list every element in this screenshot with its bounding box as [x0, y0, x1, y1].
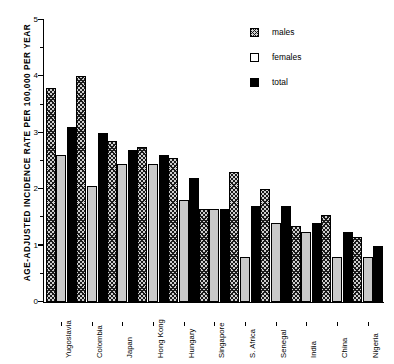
x-axis-line: [43, 302, 384, 303]
y-axis-title: AGE-ADJUSTED INCIDENCE RATE PER 100,000 …: [23, 8, 32, 298]
bar-females: [87, 186, 97, 302]
bar-females: [271, 223, 281, 302]
x-axis-tick: [368, 322, 369, 326]
bar-group: [137, 20, 168, 302]
y-axis-tick-label: 1: [24, 242, 38, 250]
x-axis-tick: [184, 322, 185, 326]
bar-females: [148, 164, 158, 302]
bar-females: [56, 155, 66, 302]
bar-females: [301, 232, 311, 303]
bar-males: [229, 172, 239, 302]
bar-chart: AGE-ADJUSTED INCIDENCE RATE PER 100,000 …: [0, 0, 394, 364]
y-axis-tick: [38, 244, 44, 245]
x-axis-label: Hong Kong: [156, 319, 165, 358]
bar-group: [76, 20, 107, 302]
x-axis-tick: [92, 322, 93, 326]
legend-swatch-total-icon: [250, 78, 259, 87]
bar-group: [352, 20, 383, 302]
x-axis-label: S. Africa: [248, 329, 257, 358]
bar-total: [373, 246, 383, 302]
bar-group: [46, 20, 77, 302]
bar-males: [107, 141, 117, 302]
y-axis-tick-label: 3: [24, 129, 38, 137]
x-axis-tick: [61, 322, 62, 326]
y-axis-minor-tick: [40, 160, 44, 161]
bar-females: [240, 257, 250, 302]
bar-group: [291, 20, 322, 302]
bar-females: [332, 257, 342, 302]
bar-group: [321, 20, 352, 302]
y-axis-tick-label: 0: [24, 298, 38, 306]
y-axis-tick-label: 2: [24, 185, 38, 193]
y-axis-minor-tick: [40, 273, 44, 274]
x-axis-label: Senegal: [279, 329, 288, 358]
x-axis-label: Nigeria: [371, 333, 380, 358]
bar-males: [260, 189, 270, 302]
bar-males: [291, 226, 301, 302]
y-axis-minor-tick: [40, 104, 44, 105]
x-axis-tick: [122, 322, 123, 326]
legend-swatch-females-icon: [250, 53, 259, 62]
y-axis-tick-label: 5: [24, 16, 38, 24]
x-axis-tick: [337, 322, 338, 326]
x-axis-label: Hungary: [187, 329, 196, 358]
y-axis-tick: [38, 75, 44, 76]
bar-group: [107, 20, 138, 302]
y-axis-tick: [38, 132, 44, 133]
bar-females: [179, 200, 189, 302]
legend-label-females: females: [272, 53, 301, 62]
x-axis-label: Yugoslavia: [64, 320, 73, 358]
y-axis-tick: [38, 188, 44, 189]
bar-males: [321, 215, 331, 302]
x-axis-label: Japan: [125, 337, 134, 358]
bar-males: [199, 209, 209, 302]
y-axis-tick-label: 4: [24, 72, 38, 80]
x-axis-tick: [306, 322, 307, 326]
x-axis-label: China: [340, 338, 349, 358]
x-axis-label: Singapore: [217, 322, 226, 358]
y-axis-minor-tick: [40, 216, 44, 217]
bar-males: [76, 76, 86, 302]
legend-label-total: total: [272, 78, 288, 87]
bar-females: [363, 257, 373, 302]
bar-males: [137, 147, 147, 302]
bar-males: [352, 237, 362, 302]
x-axis-tick: [214, 322, 215, 326]
bar-females: [209, 209, 219, 302]
x-axis-tick: [245, 322, 246, 326]
x-axis-label: India: [309, 341, 318, 358]
bar-males: [168, 158, 178, 302]
x-axis-label: Colombia: [95, 325, 104, 358]
bar-group: [229, 20, 260, 302]
y-axis-minor-tick: [40, 47, 44, 48]
plot-area: 012345: [44, 20, 384, 302]
legend-label-males: males: [272, 28, 294, 37]
bar-group: [260, 20, 291, 302]
bar-females: [117, 164, 127, 302]
legend-swatch-males-icon: [250, 28, 259, 37]
bar-group: [168, 20, 199, 302]
bar-group: [199, 20, 230, 302]
y-axis-tick: [38, 301, 44, 302]
x-axis-tick: [276, 322, 277, 326]
bar-males: [46, 88, 56, 302]
y-axis-tick: [38, 19, 44, 20]
x-axis-tick: [153, 322, 154, 326]
